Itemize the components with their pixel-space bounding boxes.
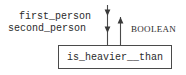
input-label-first-person: first_person: [19, 11, 91, 22]
diagram-canvas: first_person second_person BOOLEAN is_he…: [0, 0, 186, 75]
output-arrow-up-group: [118, 17, 124, 45]
return-type-label-boolean: BOOLEAN: [131, 24, 176, 34]
arrowhead-up-boolean: [118, 17, 124, 24]
input-arrow-down-group: [105, 5, 111, 45]
input-label-second-person: second_person: [8, 23, 86, 34]
arrowhead-down-second: [105, 27, 111, 34]
function-name-label: is_heavier__than: [67, 52, 163, 63]
arrowhead-down-first: [105, 10, 111, 17]
function-box: is_heavier__than: [58, 45, 172, 69]
